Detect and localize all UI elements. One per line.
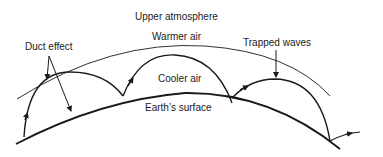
label-upper-atmosphere: Upper atmosphere xyxy=(135,11,218,22)
duct-effect-pointer-2-icon xyxy=(49,56,71,111)
label-earths-surface: Earth’s surface xyxy=(145,102,212,113)
exit-wave-arrow-icon xyxy=(330,132,360,141)
exit-arrowhead-icon xyxy=(345,133,352,135)
duct-effect-pointer-1-icon xyxy=(47,56,49,79)
wave-arrow-2-icon xyxy=(128,78,133,86)
label-duct-effect: Duct effect xyxy=(25,41,73,52)
label-trapped-waves: Trapped waves xyxy=(243,37,311,48)
label-warmer-air: Warmer air xyxy=(152,31,202,42)
wave-arc-1 xyxy=(24,72,123,137)
wave-arrow-3-icon xyxy=(240,86,248,90)
label-cooler-air: Cooler air xyxy=(158,73,202,84)
tropospheric-ducting-diagram: Upper atmosphere Warmer air Duct effect … xyxy=(0,0,383,157)
